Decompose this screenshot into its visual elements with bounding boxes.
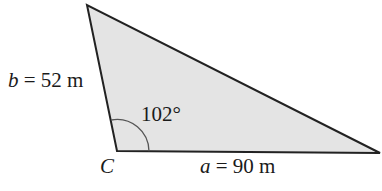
vertex-c-label: C [100, 156, 114, 177]
triangle-figure [0, 0, 382, 191]
triangle-diagram: b = 52 m 102° C a = 90 m [0, 0, 382, 191]
angle-c-label: 102° [141, 104, 181, 125]
triangle-shape [87, 5, 380, 153]
side-b-label: b = 52 m [8, 70, 83, 91]
side-a-label: a = 90 m [200, 156, 275, 177]
